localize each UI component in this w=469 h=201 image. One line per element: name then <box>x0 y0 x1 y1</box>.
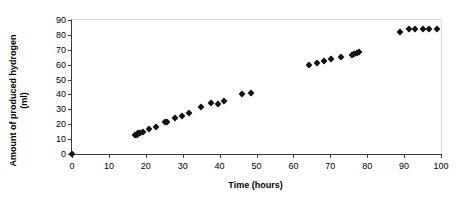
y-axis-tick-label: 60 <box>56 60 66 70</box>
y-axis-tick <box>68 109 72 110</box>
data-point <box>433 25 440 32</box>
y-axis-tick-label: 0 <box>61 149 66 159</box>
x-axis-tick <box>220 154 221 158</box>
y-axis-tick <box>68 139 72 140</box>
x-axis-tick <box>183 154 184 158</box>
x-axis-tick <box>367 154 368 158</box>
data-point <box>153 124 160 131</box>
y-axis-tick-label: 90 <box>56 15 66 25</box>
x-axis-tick-label: 70 <box>325 161 335 171</box>
data-point <box>164 118 171 125</box>
plot-area: 0102030405060708090010203040506070809010… <box>71 19 442 155</box>
x-axis-tick-label: 80 <box>362 161 372 171</box>
x-axis-tick <box>330 154 331 158</box>
y-axis-tick <box>68 20 72 21</box>
data-point <box>396 28 403 35</box>
data-point <box>328 56 335 63</box>
y-axis-label: (ml) Amount of produced hydrogen <box>0 0 38 201</box>
data-point <box>238 91 245 98</box>
y-axis-tick-label: 80 <box>56 30 66 40</box>
x-axis-tick-label: 30 <box>178 161 188 171</box>
y-axis-tick-label: 10 <box>56 134 66 144</box>
data-point <box>337 53 344 60</box>
y-axis-tick-label: 20 <box>56 119 66 129</box>
data-point <box>247 89 254 96</box>
data-point <box>178 112 185 119</box>
y-axis-label-line1: Amount of produced hydrogen <box>8 35 19 167</box>
x-axis-tick-label: 100 <box>433 161 448 171</box>
y-axis-label-line2: (ml) <box>19 92 30 109</box>
x-axis-tick-label: 40 <box>215 161 225 171</box>
data-point <box>313 60 320 67</box>
x-axis-tick-label: 0 <box>69 161 74 171</box>
data-point <box>426 25 433 32</box>
y-axis-tick <box>68 35 72 36</box>
x-axis-tick-label: 50 <box>251 161 261 171</box>
x-axis-tick-label: 60 <box>288 161 298 171</box>
y-axis-tick <box>68 124 72 125</box>
y-axis-tick <box>68 80 72 81</box>
data-point <box>171 114 178 121</box>
y-axis-tick <box>68 94 72 95</box>
x-axis-tick-label: 90 <box>399 161 409 171</box>
x-axis-tick-label: 10 <box>104 161 114 171</box>
data-point <box>68 150 75 157</box>
y-axis-tick <box>68 65 72 66</box>
hydrogen-production-scatter-chart: (ml) Amount of produced hydrogen 0102030… <box>0 0 469 201</box>
x-axis-tick <box>146 154 147 158</box>
data-point <box>185 110 192 117</box>
data-point <box>198 103 205 110</box>
x-axis-tick-label: 20 <box>141 161 151 171</box>
x-axis-tick <box>109 154 110 158</box>
y-axis-tick-label: 30 <box>56 104 66 114</box>
x-axis-label: Time (hours) <box>71 180 440 190</box>
data-point <box>320 57 327 64</box>
x-axis-tick <box>293 154 294 158</box>
y-axis-tick <box>68 50 72 51</box>
data-point <box>412 25 419 32</box>
x-axis-tick <box>257 154 258 158</box>
x-axis-tick <box>441 154 442 158</box>
data-point <box>305 62 312 69</box>
y-axis-tick-label: 40 <box>56 89 66 99</box>
x-axis-tick <box>404 154 405 158</box>
y-axis-tick-label: 50 <box>56 75 66 85</box>
y-axis-tick-label: 70 <box>56 45 66 55</box>
data-point <box>221 97 228 104</box>
